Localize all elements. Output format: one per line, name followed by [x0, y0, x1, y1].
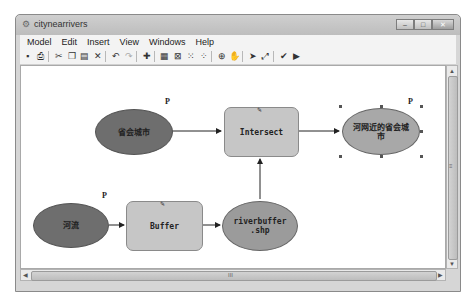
tool-edit-icon: ✎ — [160, 200, 165, 207]
select-icon[interactable]: ➤ — [247, 51, 258, 62]
selection-handle[interactable] — [339, 105, 342, 108]
zoom-in-icon[interactable]: ⊕ — [216, 51, 227, 62]
paste-icon[interactable]: ▤ — [79, 51, 90, 62]
parameter-marker: P — [102, 191, 107, 200]
intersect-label: Intersect — [240, 128, 283, 137]
tool-edit-icon: ✎ — [257, 106, 262, 113]
menu-view[interactable]: View — [119, 37, 140, 47]
undo-icon[interactable]: ↶ — [110, 51, 121, 62]
buffer-tool-node[interactable]: Buffer — [126, 201, 203, 251]
toolbar: ▪ ⎙ ✂ ❐ ▤ ✕ ↶ ↷ ✚ ▦ ⊠ ⁙ ⁘ ⊕ ✋ ➤ ⤢ ✔ ▶ — [20, 49, 456, 65]
cut-icon[interactable]: ✂ — [53, 51, 64, 62]
parameter-marker: P — [408, 97, 413, 106]
menu-edit[interactable]: Edit — [61, 37, 79, 47]
run-icon[interactable]: ▶ — [291, 51, 302, 62]
capital-cities-node[interactable]: 省会城市 — [95, 109, 173, 155]
pan-icon[interactable]: ✋ — [229, 51, 240, 62]
title-bar[interactable]: ⚙ citynearrivers – □ ✕ — [16, 15, 460, 35]
scroll-grip-icon: ≡ — [449, 163, 453, 169]
selection-handle[interactable] — [339, 155, 342, 158]
close-button[interactable]: ✕ — [432, 19, 454, 30]
parameter-marker: P — [165, 97, 170, 106]
window-title: citynearrivers — [34, 19, 88, 29]
model-icon: ⚙ — [22, 20, 31, 29]
model-canvas[interactable]: 省会城市 P Intersect ✎ 河网近的省会城市 P 河流 P Buffe… — [20, 65, 446, 269]
add-data-icon[interactable]: ✚ — [141, 51, 152, 62]
validate-icon[interactable]: ✔ — [278, 51, 289, 62]
horizontal-scrollbar[interactable]: ◀ III ▶ — [20, 269, 446, 281]
menu-insert[interactable]: Insert — [86, 37, 111, 47]
selection-handle[interactable] — [380, 105, 383, 108]
print-icon[interactable]: ⎙ — [35, 51, 46, 62]
menu-help[interactable]: Help — [194, 37, 215, 47]
menu-windows[interactable]: Windows — [148, 37, 187, 47]
rivers-label: 河流 — [63, 221, 79, 230]
delete-icon[interactable]: ✕ — [92, 51, 103, 62]
selection-handle[interactable] — [420, 105, 423, 108]
save-icon[interactable]: ▪ — [22, 51, 33, 62]
window-controls: – □ ✕ — [396, 19, 454, 30]
scroll-right-arrow-icon[interactable]: ▶ — [438, 272, 443, 278]
scroll-grip-icon: III — [228, 272, 233, 278]
selection-handle[interactable] — [420, 130, 423, 133]
scroll-up-arrow-icon[interactable]: ▲ — [449, 68, 455, 74]
minimize-button[interactable]: – — [396, 19, 414, 30]
toolbar-separator — [105, 51, 106, 62]
menu-model[interactable]: Model — [26, 37, 53, 47]
scroll-down-arrow-icon[interactable]: ▼ — [449, 261, 455, 267]
output-cities-node[interactable]: 河网近的省会城市 — [342, 108, 420, 155]
output-cities-label: 河网近的省会城市 — [353, 123, 409, 141]
rivers-node[interactable]: 河流 — [33, 203, 109, 248]
full-extent-icon[interactable]: ⊠ — [172, 51, 183, 62]
redo-icon[interactable]: ↷ — [123, 51, 134, 62]
vertical-scrollbar[interactable]: ▲ ≡ ▼ — [446, 65, 458, 269]
model-builder-window: ⚙ citynearrivers – □ ✕ Model Edit Insert… — [15, 14, 461, 292]
menu-bar: Model Edit Insert View Windows Help — [20, 35, 456, 49]
capital-cities-label: 省会城市 — [118, 128, 150, 137]
connect-icon[interactable]: ⤢ — [260, 51, 271, 62]
horizontal-scroll-thumb[interactable]: III — [31, 271, 437, 281]
toolbar-separator — [273, 51, 274, 62]
maximize-button[interactable]: □ — [414, 19, 432, 30]
intersect-tool-node[interactable]: Intersect — [224, 107, 299, 157]
riverbuffer-label: riverbuffer .shp — [227, 217, 293, 235]
vertical-scroll-thumb[interactable]: ≡ — [448, 76, 458, 260]
toolbar-separator — [154, 51, 155, 62]
scroll-left-arrow-icon[interactable]: ◀ — [23, 272, 28, 278]
toolbar-separator — [136, 51, 137, 62]
selection-handle[interactable] — [380, 155, 383, 158]
fixed-zoom-in-icon[interactable]: ⁙ — [185, 51, 196, 62]
fixed-zoom-out-icon[interactable]: ⁘ — [198, 51, 209, 62]
copy-icon[interactable]: ❐ — [66, 51, 77, 62]
toolbar-separator — [242, 51, 243, 62]
selection-handle[interactable] — [420, 155, 423, 158]
auto-layout-icon[interactable]: ▦ — [159, 51, 170, 62]
toolbar-separator — [48, 51, 49, 62]
buffer-label: Buffer — [150, 222, 179, 231]
toolbar-separator — [211, 51, 212, 62]
riverbuffer-node[interactable]: riverbuffer .shp — [222, 201, 298, 251]
